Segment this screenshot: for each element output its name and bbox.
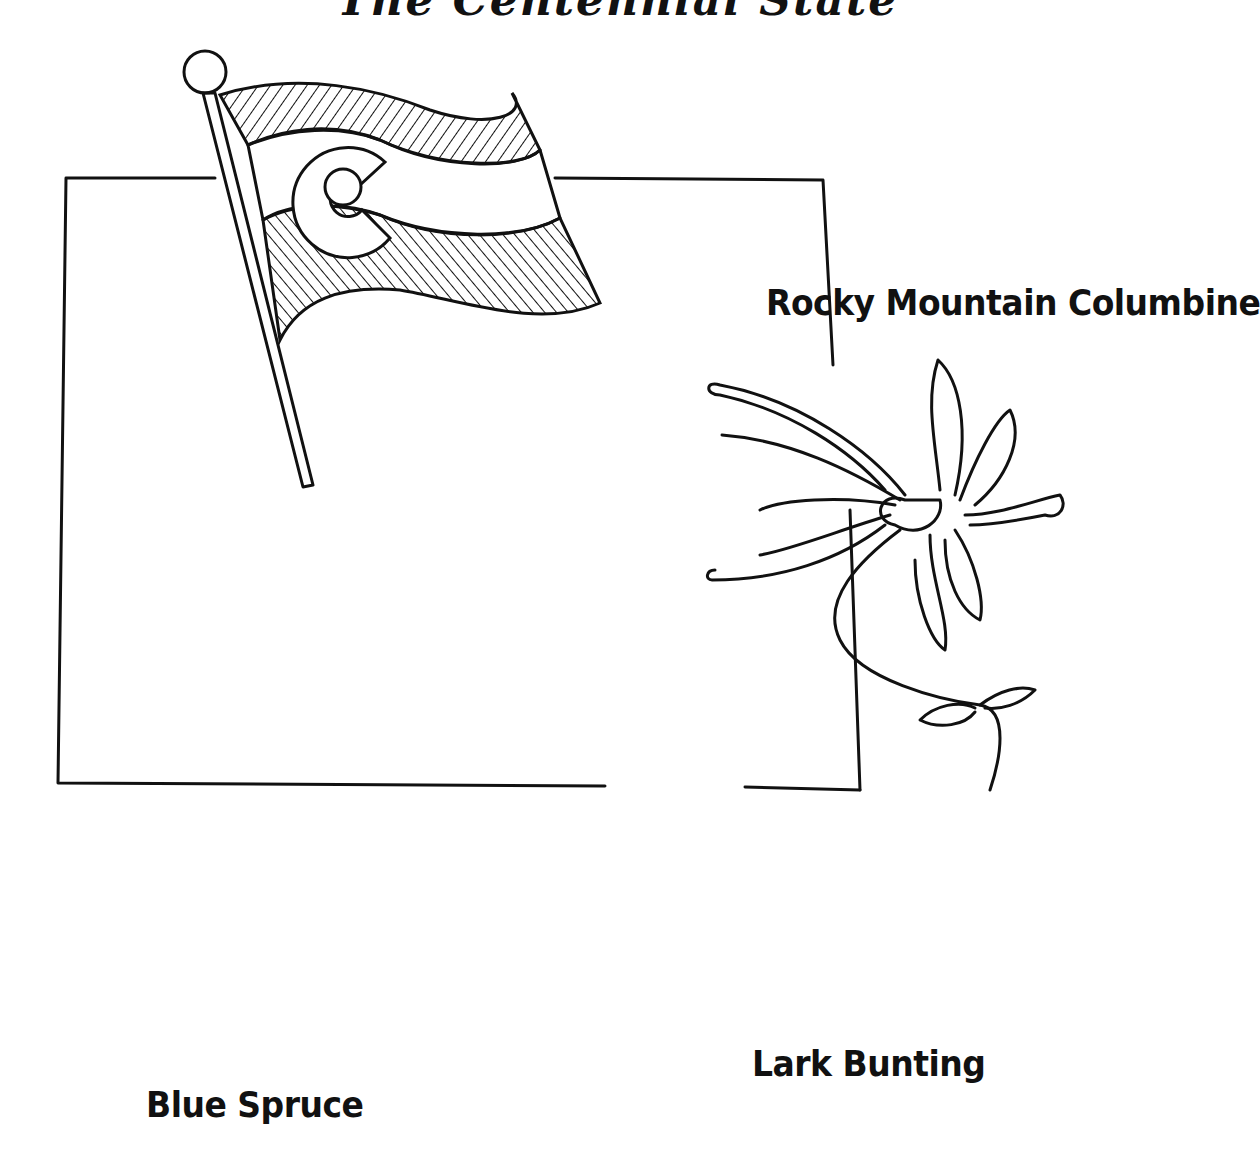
flag-icon [184, 51, 600, 487]
columbine-flower-icon [707, 360, 1063, 790]
flower-label: Rocky Mountain Columbine [766, 281, 1260, 324]
tree-label: Blue Spruce [146, 1083, 363, 1126]
bird-label: Lark Bunting [752, 1042, 985, 1085]
